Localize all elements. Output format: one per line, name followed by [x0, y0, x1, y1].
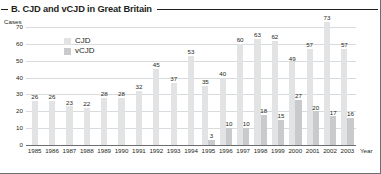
header-horizontal-rule [157, 9, 378, 10]
bar-value-label: 26 [31, 94, 38, 100]
bar-group: 28 [96, 27, 113, 145]
x-axis-tick-label-1998: 1998 [252, 147, 269, 157]
x-axis-tick-label-1997: 1997 [235, 147, 252, 157]
bar-value-label: 45 [153, 62, 160, 68]
chart-legend: CJDvCJD [64, 36, 95, 56]
x-axis-tick-labels: 1985198619871988198919901991199219931994… [26, 147, 356, 157]
legend-swatch-vcjd [64, 48, 71, 55]
x-axis-tick-label-1988: 1988 [78, 147, 95, 157]
x-axis-tick-label-1999: 1999 [269, 147, 286, 157]
bar-value-label: 10 [243, 121, 250, 127]
bar-value-label: 22 [83, 101, 90, 107]
y-axis-tick-label: 60 [16, 41, 23, 47]
x-axis-tick-label-1989: 1989 [96, 147, 113, 157]
bar-cjd-1985[interactable]: 26 [32, 101, 38, 145]
y-axis-tick-label: 70 [16, 24, 23, 30]
y-axis-tick-label: 50 [16, 58, 23, 64]
bar-value-label: 40 [219, 71, 226, 77]
bar-value-label: 23 [66, 100, 73, 106]
bar-vcjd-1998[interactable]: 18 [261, 115, 267, 145]
bar-value-label: 35 [202, 79, 209, 85]
x-axis-tick-label-1990: 1990 [113, 147, 130, 157]
bar-vcjd-1996[interactable]: 10 [226, 128, 232, 145]
bar-value-label: 53 [188, 49, 195, 55]
bar-group: 28 [113, 27, 130, 145]
page-title: B. CJD and vCJD in Great Britain [11, 4, 152, 14]
header-dash-rule [1, 9, 8, 10]
bar-group: 32 [130, 27, 147, 145]
bar-cjd-1988[interactable]: 22 [84, 108, 90, 145]
bar-value-label: 57 [341, 42, 348, 48]
bar-cjd-1989[interactable]: 28 [101, 98, 107, 145]
x-axis-tick-label-1987: 1987 [61, 147, 78, 157]
bar-cjd-1986[interactable]: 26 [49, 101, 55, 145]
bar-group: 6318 [252, 27, 269, 145]
legend-swatch-cjd [64, 38, 71, 45]
x-axis-tick-label-1992: 1992 [148, 147, 165, 157]
bar-value-label: 18 [260, 108, 267, 114]
bar-cjd-1994[interactable]: 53 [188, 56, 194, 145]
bar-value-label: 10 [225, 121, 232, 127]
bar-value-label: 60 [237, 37, 244, 43]
bar-group: 6010 [235, 27, 252, 145]
y-axis-tick-label: 30 [16, 91, 23, 97]
bar-vcjd-1997[interactable]: 10 [243, 128, 249, 145]
bar-cjd-1993[interactable]: 37 [171, 83, 177, 145]
bar-group: 45 [148, 27, 165, 145]
y-axis-tick-label: 10 [16, 125, 23, 131]
bar-value-label: 57 [306, 42, 313, 48]
bar-group: 53 [182, 27, 199, 145]
bar-value-label: 37 [170, 76, 177, 82]
bar-vcjd-2003[interactable]: 16 [347, 118, 353, 145]
bar-vcjd-2001[interactable]: 20 [313, 111, 319, 145]
x-axis-tick-label-1994: 1994 [182, 147, 199, 157]
bar-vcjd-1999[interactable]: 15 [278, 120, 284, 145]
bar-group: 5716 [339, 27, 356, 145]
bar-group: 37 [165, 27, 182, 145]
x-axis-tick-label-1985: 1985 [26, 147, 43, 157]
bar-value-label: 27 [295, 93, 302, 99]
x-axis-label: Year [360, 147, 373, 154]
bar-vcjd-2000[interactable]: 27 [295, 100, 301, 146]
x-axis-tick-label-1991: 1991 [130, 147, 147, 157]
bar-cjd-1987[interactable]: 23 [66, 106, 72, 145]
bar-cjd-1991[interactable]: 32 [136, 91, 142, 145]
legend-item-cjd[interactable]: CJD [64, 36, 95, 46]
x-axis-tick-label-2002: 2002 [321, 147, 338, 157]
figure-panel: B. CJD and vCJD in Great Britain Cases 0… [0, 0, 381, 174]
x-axis-tick-label-1996: 1996 [217, 147, 234, 157]
bar-value-label: 16 [347, 111, 354, 117]
bar-group: 6215 [269, 27, 286, 145]
bar-value-label: 3 [210, 133, 213, 139]
bar-value-label: 15 [278, 113, 285, 119]
x-axis-tick-label-1993: 1993 [165, 147, 182, 157]
x-axis-tick-label-2003: 2003 [339, 147, 356, 157]
axis-baseline: 0 [26, 145, 356, 146]
bar-value-label: 26 [49, 94, 56, 100]
bar-group: 4010 [217, 27, 234, 145]
bar-value-label: 28 [118, 91, 125, 97]
x-axis-tick-label-2000: 2000 [287, 147, 304, 157]
bar-value-label: 49 [289, 56, 296, 62]
legend-item-vcjd[interactable]: vCJD [64, 46, 95, 56]
bar-value-label: 73 [324, 15, 331, 21]
y-axis-tick-label: 40 [16, 74, 23, 80]
bar-cjd-1990[interactable]: 28 [118, 98, 124, 145]
y-axis-tick-label: 0 [20, 142, 23, 148]
bar-cjd-1995[interactable]: 35 [202, 86, 208, 145]
bar-value-label: 32 [135, 84, 142, 90]
bar-value-label: 62 [271, 34, 278, 40]
legend-item-label: vCJD [75, 47, 95, 55]
x-axis-tick-label-1995: 1995 [200, 147, 217, 157]
bar-group: 26 [43, 27, 60, 145]
bar-cjd-1992[interactable]: 45 [153, 69, 159, 145]
x-axis-tick-label-1986: 1986 [43, 147, 60, 157]
bar-value-label: 20 [312, 105, 319, 111]
bar-vcjd-1995[interactable]: 3 [208, 140, 214, 145]
x-axis-tick-label-2001: 2001 [304, 147, 321, 157]
bar-group: 5720 [304, 27, 321, 145]
bar-value-label: 17 [330, 110, 337, 116]
bar-vcjd-2002[interactable]: 17 [330, 116, 336, 145]
bar-group: 4927 [287, 27, 304, 145]
bar-value-label: 63 [254, 32, 261, 38]
